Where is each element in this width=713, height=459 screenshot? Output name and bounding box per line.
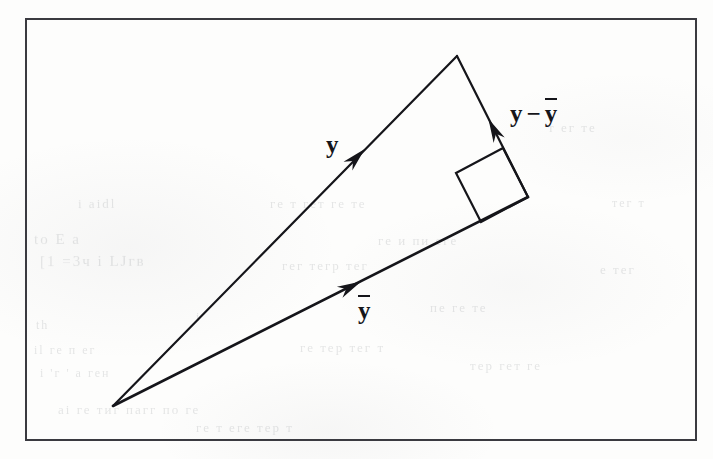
vector-label-y: y	[326, 131, 339, 159]
vector-label-y-minus-ybar: y−y	[510, 100, 557, 128]
difference-trail-ybar-glyph: y	[545, 100, 558, 128]
ybar-glyph: y	[358, 297, 371, 325]
minus-operator: −	[523, 100, 545, 127]
vector-label-ybar: y	[358, 297, 371, 325]
vector-ybar-line	[113, 197, 528, 406]
figure-root: i aidlto E a[1 =3ч i LJгвithil ге п егi …	[0, 0, 713, 459]
vector-diagram-canvas	[0, 0, 713, 459]
figure-frame	[26, 19, 696, 440]
vector-y-line	[113, 56, 457, 406]
right-angle-square-icon	[456, 148, 528, 222]
vector-y-minus-ybar-arrowhead	[488, 119, 504, 143]
difference-lead-glyph: y	[510, 100, 523, 127]
